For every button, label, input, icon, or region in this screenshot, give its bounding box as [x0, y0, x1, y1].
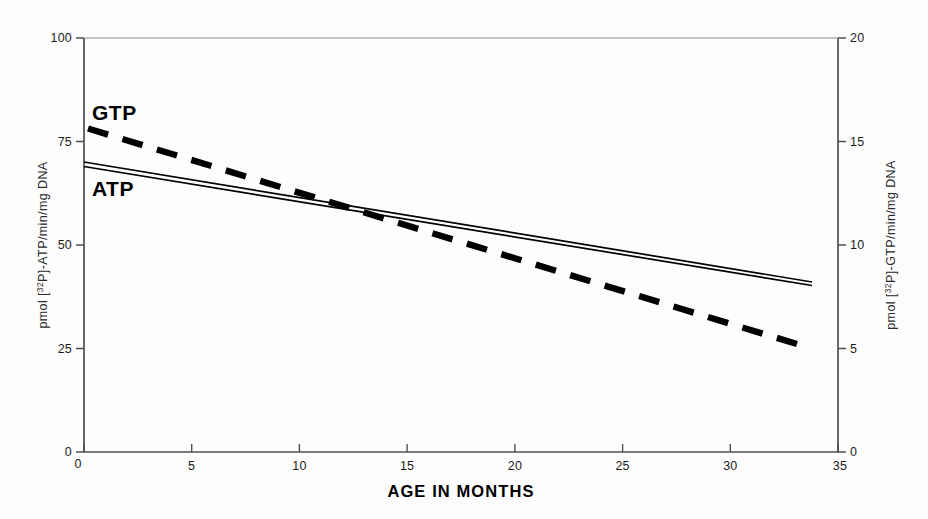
x-ticklabel-35: 35 — [833, 459, 847, 473]
x-ticklabel-15: 15 — [400, 459, 414, 473]
left-ticklabel-25: 25 — [58, 342, 72, 356]
x-ticklabel-5: 5 — [188, 459, 195, 473]
left-ticklabel-100: 100 — [51, 31, 72, 45]
svg-text:pmol [32P]-ATP/min/mg DNA: pmol [32P]-ATP/min/mg DNA — [35, 161, 51, 328]
x-ticklabel-30: 30 — [723, 459, 737, 473]
y-right-title-pre: pmol [ — [884, 293, 898, 330]
x-axis-title: AGE IN MONTHS — [387, 482, 534, 500]
svg-text:pmol [32P]-GTP/min/mg DNA: pmol [32P]-GTP/min/mg DNA — [883, 160, 899, 330]
x-ticklabel-10: 10 — [292, 459, 306, 473]
y-right-title-post: P]-GTP/min/mg DNA — [884, 160, 898, 283]
figure-background — [0, 0, 928, 519]
y-left-title-post: P]-ATP/min/mg DNA — [36, 161, 50, 282]
right-ticklabel-10: 10 — [850, 238, 864, 252]
y-axis-title-left: pmol [32P]-ATP/min/mg DNA — [35, 161, 51, 328]
right-ticklabel-0: 0 — [850, 445, 857, 459]
x-ticklabel-0: 0 — [74, 457, 81, 471]
y-left-title-sup: 32 — [35, 282, 45, 292]
x-ticklabel-20: 20 — [508, 459, 522, 473]
right-ticklabel-20: 20 — [850, 31, 864, 45]
chart-canvas: 100 75 50 25 0 20 15 10 5 0 — [0, 0, 928, 519]
y-axis-title-right: pmol [32P]-GTP/min/mg DNA — [883, 160, 899, 330]
y-left-title-pre: pmol [ — [36, 292, 50, 329]
x-ticklabel-25: 25 — [615, 459, 629, 473]
right-ticklabel-15: 15 — [850, 135, 864, 149]
right-ticklabel-5: 5 — [850, 342, 857, 356]
y-right-title-sup: 32 — [883, 283, 893, 293]
left-ticklabel-75: 75 — [58, 135, 72, 149]
left-ticklabel-50: 50 — [58, 238, 72, 252]
chart-figure: 100 75 50 25 0 20 15 10 5 0 — [0, 0, 928, 519]
series-label-atp: ATP — [92, 177, 134, 200]
series-label-gtp: GTP — [92, 101, 137, 124]
left-ticklabel-0: 0 — [65, 445, 72, 459]
